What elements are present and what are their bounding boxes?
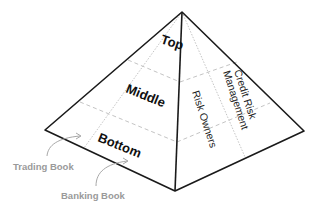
level-label-middle: Middle <box>124 81 168 110</box>
level-label-bottom: Bottom <box>96 130 144 161</box>
trading-book-label: Trading Book <box>13 161 74 172</box>
banking-book-label: Banking Book <box>61 190 126 201</box>
pyramid-diagram: Top Middle Bottom Risk Owners Credit Ris… <box>0 0 316 215</box>
risk-owners-label: Risk Owners <box>190 89 220 149</box>
